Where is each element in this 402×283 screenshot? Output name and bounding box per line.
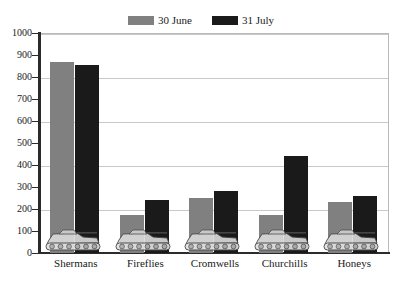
- y-axis-tick-label: 100: [2, 226, 32, 236]
- y-axis-tick: [32, 121, 39, 122]
- y-axis-tick-label: 500: [2, 138, 32, 148]
- y-axis-tick: [32, 99, 39, 100]
- legend-label-31-july: 31 July: [242, 15, 274, 26]
- bar-chart: 30 June 31 July 010020030040050060070080…: [0, 0, 402, 283]
- bar-shermans-june: [50, 62, 74, 253]
- y-axis-tick: [32, 231, 39, 232]
- legend-entry-31-july: 31 July: [212, 15, 274, 26]
- y-axis-tick-label: 600: [2, 116, 32, 126]
- y-axis-tick-label: 400: [2, 160, 32, 170]
- y-axis-tick-label: 700: [2, 94, 32, 104]
- bar-group: [250, 33, 320, 253]
- tank-silhouette-icon: [113, 227, 173, 253]
- bar-group: [319, 33, 389, 253]
- legend-swatch-31-july: [212, 16, 238, 25]
- y-axis-tick: [32, 33, 39, 34]
- legend-swatch-30-june: [128, 16, 154, 25]
- bar-group: [41, 33, 111, 253]
- y-axis-tick: [32, 143, 39, 144]
- y-axis-tick-label: 200: [2, 204, 32, 214]
- chart-legend: 30 June 31 July: [0, 12, 402, 28]
- y-axis-tick: [32, 77, 39, 78]
- y-axis-tick: [32, 209, 39, 210]
- x-axis-label-churchills: Churchills: [250, 256, 320, 270]
- y-axis-tick-label: 300: [2, 182, 32, 192]
- y-axis-tick: [32, 165, 39, 166]
- bar-group: [180, 33, 250, 253]
- tank-silhouette-icon: [321, 227, 381, 253]
- y-axis-tick: [32, 55, 39, 56]
- x-axis-labels: ShermansFirefliesCromwellsChurchillsHone…: [41, 256, 389, 278]
- legend-label-30-june: 30 June: [158, 15, 192, 26]
- y-axis-tick-label: 1000: [2, 28, 32, 38]
- x-axis-label-honeys: Honeys: [319, 256, 389, 270]
- x-axis-label-cromwells: Cromwells: [180, 256, 250, 270]
- x-axis-label-shermans: Shermans: [41, 256, 111, 270]
- bar-group: [111, 33, 181, 253]
- tank-silhouette-icon: [252, 227, 312, 253]
- x-axis-label-fireflies: Fireflies: [111, 256, 181, 270]
- bars-layer: [41, 33, 389, 253]
- y-axis-tick: [32, 187, 39, 188]
- y-axis-tick-label: 800: [2, 72, 32, 82]
- bar-shermans-july: [75, 65, 99, 253]
- y-axis-tick: [32, 253, 39, 254]
- legend-entry-30-june: 30 June: [128, 15, 192, 26]
- y-axis-tick-label: 0: [2, 248, 32, 258]
- tank-silhouette-icon: [43, 227, 103, 253]
- y-axis-tick-label: 900: [2, 50, 32, 60]
- tank-silhouette-icon: [182, 227, 242, 253]
